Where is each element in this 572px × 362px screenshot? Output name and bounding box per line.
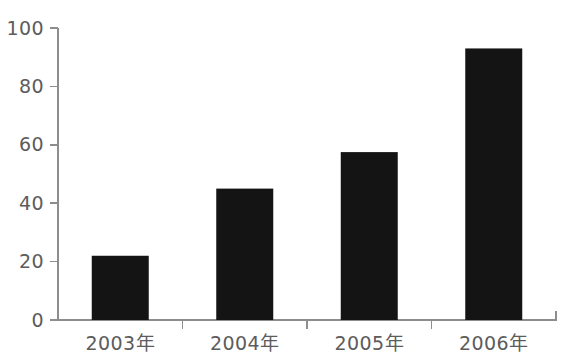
x-tick-label-2: 2005年 (335, 332, 404, 354)
x-tick-label-0: 2003年 (86, 332, 155, 354)
y-tick-label-20: 20 (19, 250, 44, 272)
chart-canvas: 020406080100 2003年2004年2005年2006年 (0, 0, 572, 362)
bar-2006年 (465, 48, 522, 320)
x-axis-tick-labels: 2003年2004年2005年2006年 (86, 332, 529, 354)
x-tick-label-3: 2006年 (459, 332, 528, 354)
y-tick-label-100: 100 (7, 17, 44, 39)
y-tick-label-40: 40 (19, 192, 44, 214)
x-axis-ticks (183, 320, 432, 329)
bar-2004年 (216, 189, 273, 320)
y-tick-label-0: 0 (32, 309, 45, 331)
x-tick-label-1: 2004年 (210, 332, 279, 354)
bar-2003年 (92, 256, 149, 320)
bar-chart: 020406080100 2003年2004年2005年2006年 (0, 0, 572, 362)
y-tick-label-80: 80 (19, 75, 44, 97)
y-axis-ticks (50, 28, 58, 320)
bar-2005年 (341, 152, 398, 320)
bar-series (92, 48, 523, 320)
y-axis-tick-labels: 020406080100 (7, 17, 44, 331)
y-tick-label-60: 60 (19, 133, 44, 155)
